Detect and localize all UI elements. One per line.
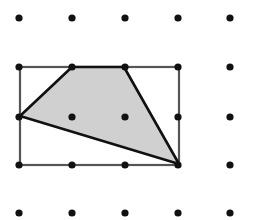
grid-dot-r1-c1 — [68, 63, 75, 70]
grid-dot-r4-c4 — [226, 209, 233, 216]
grid-dot-r1-c0 — [15, 63, 22, 70]
grid-dot-r2-c4 — [226, 113, 233, 120]
grid-dot-r2-c2 — [121, 113, 128, 120]
diagram-canvas — [0, 0, 260, 220]
grid-dot-r3-c2 — [121, 161, 128, 168]
grid-dot-r4-c3 — [174, 209, 181, 216]
grid-dot-r3-c4 — [226, 161, 233, 168]
grid-dot-r4-c0 — [15, 209, 22, 216]
grid-dot-r0-c0 — [15, 14, 22, 21]
grid-dot-r2-c3 — [174, 113, 181, 120]
dot-grid-diagram — [0, 0, 260, 220]
grid-dot-r2-c1 — [68, 113, 75, 120]
grid-dot-r3-c0 — [15, 161, 22, 168]
grid-dot-r0-c3 — [174, 14, 181, 21]
grid-dot-r4-c1 — [68, 209, 75, 216]
grid-dot-r3-c3 — [174, 161, 181, 168]
grid-dot-r0-c4 — [226, 14, 233, 21]
grid-dot-r1-c4 — [226, 63, 233, 70]
grid-dot-r0-c1 — [68, 14, 75, 21]
grid-dot-r4-c2 — [121, 209, 128, 216]
grid-dot-r1-c3 — [174, 63, 181, 70]
grid-dot-r1-c2 — [121, 63, 128, 70]
grid-dot-r0-c2 — [121, 14, 128, 21]
grid-dot-r3-c1 — [68, 161, 75, 168]
grid-dot-r2-c0 — [15, 113, 22, 120]
